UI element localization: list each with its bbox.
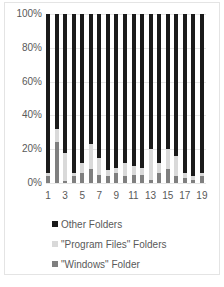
- bar-15: [166, 14, 170, 183]
- bar-10: [123, 14, 127, 183]
- bar-segment: [114, 173, 118, 183]
- bar-segment: [183, 14, 187, 173]
- bar-segment: [80, 14, 84, 163]
- legend-item-windows-folder: "Windows" Folder: [52, 254, 166, 274]
- x-tick-label: 17: [177, 190, 193, 201]
- x-tick-label: 11: [126, 190, 142, 201]
- x-tick-label: 15: [160, 190, 176, 201]
- bar-segment: [149, 149, 153, 179]
- x-tick-label: 7: [91, 190, 107, 201]
- bar-segment: [55, 14, 59, 129]
- bar-segment: [80, 173, 84, 183]
- bar-segment: [55, 129, 59, 143]
- bar-segment: [174, 176, 178, 183]
- bar-segment: [149, 14, 153, 149]
- bar-2: [55, 14, 59, 183]
- bar-18: [191, 14, 195, 183]
- legend-item-program-files: "Program Files" Folders: [52, 234, 166, 254]
- bar-14: [157, 14, 161, 183]
- x-tick-label: 1: [40, 190, 56, 201]
- bar-12: [140, 14, 144, 183]
- plot-area: [46, 14, 206, 183]
- bar-segment: [89, 14, 93, 144]
- bar-16: [174, 14, 178, 183]
- y-tick-label: 40%: [2, 109, 42, 121]
- bar-6: [89, 14, 93, 183]
- bar-segment: [97, 175, 101, 183]
- bar-segment: [123, 176, 127, 183]
- legend-swatch-windows: [52, 261, 58, 267]
- gridline: [46, 183, 206, 184]
- bar-segment: [191, 180, 195, 183]
- bar-8: [106, 14, 110, 183]
- x-tick-label: 9: [108, 190, 124, 201]
- bar-segment: [80, 163, 84, 173]
- bar-segment: [183, 178, 187, 183]
- bar-segment: [89, 144, 93, 169]
- bar-segment: [55, 142, 59, 183]
- bar-segment: [46, 14, 50, 173]
- bar-segment: [72, 14, 76, 173]
- bar-segment: [106, 170, 110, 177]
- bar-segment: [157, 14, 161, 163]
- x-tick-label: 5: [74, 190, 90, 201]
- bar-segment: [123, 14, 127, 163]
- bar-segment: [174, 156, 178, 176]
- bar-segment: [114, 14, 118, 168]
- bar-segment: [123, 163, 127, 177]
- y-tick-label: 0%: [2, 177, 42, 189]
- legend-swatch-program-files: [52, 241, 58, 247]
- bar-1: [46, 14, 50, 183]
- bar-segment: [140, 175, 144, 183]
- bar-4: [72, 14, 76, 183]
- bar-segment: [132, 175, 136, 183]
- bar-segment: [166, 169, 170, 183]
- bar-segment: [46, 176, 50, 183]
- bar-segment: [97, 158, 101, 175]
- bar-13: [149, 14, 153, 183]
- bar-segment: [140, 14, 144, 168]
- legend-label: Other Folders: [61, 219, 122, 230]
- bar-segment: [166, 14, 170, 149]
- y-tick-label: 60%: [2, 76, 42, 88]
- x-tick-label: 13: [143, 190, 159, 201]
- bar-5: [80, 14, 84, 183]
- bar-segment: [166, 149, 170, 169]
- bar-3: [63, 14, 67, 183]
- legend-item-other-folders: Other Folders: [52, 214, 166, 234]
- bar-segment: [132, 166, 136, 174]
- bar-segment: [106, 176, 110, 183]
- legend-label: "Program Files" Folders: [61, 239, 166, 250]
- y-tick-label: 80%: [2, 42, 42, 54]
- bar-segment: [149, 180, 153, 183]
- bar-segment: [106, 14, 110, 169]
- bar-segment: [200, 176, 204, 183]
- legend-swatch-other: [52, 221, 58, 227]
- legend: Other Folders "Program Files" Folders "W…: [52, 214, 166, 274]
- bar-11: [132, 14, 136, 183]
- legend-label: "Windows" Folder: [61, 259, 140, 270]
- bar-segment: [63, 181, 67, 183]
- bar-segment: [132, 14, 136, 166]
- x-tick-label: 19: [194, 190, 210, 201]
- bar-segment: [63, 153, 67, 182]
- bar-segment: [157, 163, 161, 173]
- bar-segment: [174, 14, 178, 156]
- bar-segment: [89, 169, 93, 183]
- y-tick-label: 100%: [2, 8, 42, 20]
- y-tick-label: 20%: [2, 143, 42, 155]
- bar-segment: [140, 168, 144, 175]
- x-tick-label: 3: [57, 190, 73, 201]
- bar-segment: [200, 14, 204, 173]
- bar-segment: [72, 176, 76, 183]
- bar-segment: [97, 14, 101, 158]
- bar-segment: [191, 14, 195, 176]
- bar-7: [97, 14, 101, 183]
- bar-9: [114, 14, 118, 183]
- bar-17: [183, 14, 187, 183]
- bar-19: [200, 14, 204, 183]
- bar-segment: [63, 14, 67, 153]
- bar-segment: [157, 173, 161, 183]
